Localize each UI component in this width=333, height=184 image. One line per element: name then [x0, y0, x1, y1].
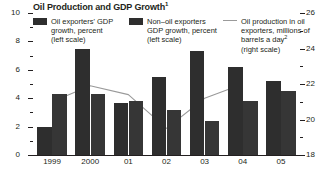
right-axis-tick — [300, 66, 303, 67]
bar-non-oil-exporters-2000 — [91, 94, 106, 155]
bar-non-oil-exporters-01 — [129, 101, 144, 155]
bar-oil-exporters-04 — [228, 67, 243, 155]
chart-figure: Oil Production and GDP Growth1 Oil expor… — [0, 0, 333, 184]
right-axis-tick-label: 20 — [306, 116, 315, 124]
chart-title: Oil Production and GDP Growth1 — [33, 2, 168, 13]
right-axis-tick-label: 26 — [306, 9, 315, 17]
x-axis-label-05: 05 — [262, 157, 300, 166]
right-axis-tick — [300, 84, 305, 85]
bar-non-oil-exporters-1999 — [52, 94, 67, 155]
bar-non-oil-exporters-05 — [281, 91, 296, 155]
right-axis-tick — [300, 31, 303, 32]
bar-oil-exporters-05 — [266, 81, 281, 155]
x-axis-label-03: 03 — [186, 157, 224, 166]
right-axis-tick — [300, 102, 303, 103]
right-axis-tick — [300, 13, 305, 14]
right-axis-tick-label: 22 — [306, 80, 315, 88]
bar-oil-exporters-01 — [114, 103, 129, 156]
right-axis-tick — [300, 137, 303, 138]
bar-oil-exporters-2000 — [75, 49, 90, 156]
bar-non-oil-exporters-03 — [205, 121, 220, 155]
right-axis-tick — [300, 49, 305, 50]
bar-oil-exporters-03 — [190, 51, 205, 155]
chart-title-text: Oil Production and GDP Growth — [33, 2, 165, 12]
left-axis-tick-label: 10 — [11, 9, 20, 17]
x-axis-label-04: 04 — [224, 157, 262, 166]
left-axis-tick-label: 8 — [16, 37, 20, 45]
x-axis-label-1999: 1999 — [33, 157, 71, 166]
bar-oil-exporters-02 — [152, 77, 167, 155]
x-axis-label-02: 02 — [147, 157, 185, 166]
bar-non-oil-exporters-02 — [167, 110, 182, 155]
axis-baseline — [33, 155, 303, 156]
bar-oil-exporters-1999 — [37, 127, 52, 155]
x-axis-label-01: 01 — [109, 157, 147, 166]
left-axis-tick-label: 6 — [16, 66, 20, 74]
right-axis-tick-label: 24 — [306, 45, 315, 53]
left-axis-tick-label: 2 — [16, 123, 20, 131]
bar-non-oil-exporters-04 — [243, 101, 258, 155]
right-axis-tick-label: 18 — [306, 151, 315, 159]
plot-area — [33, 13, 300, 155]
chart-title-footnote: 1 — [165, 1, 168, 7]
x-axis-label-2000: 2000 — [71, 157, 109, 166]
left-axis-tick-label: 4 — [16, 94, 20, 102]
right-axis-tick — [300, 120, 305, 121]
left-axis-tick-label: 0 — [16, 151, 20, 159]
